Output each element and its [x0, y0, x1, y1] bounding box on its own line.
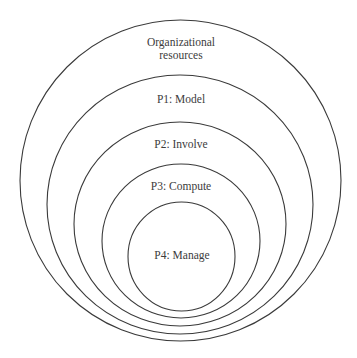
ring-p1-model: P1: Model: [47, 75, 313, 334]
nested-circles-diagram: Organizational resources P1: Model P2: I…: [0, 0, 357, 358]
ring-p1: [47, 75, 313, 334]
ring-p2-involve: P2: Involve: [74, 122, 286, 326]
ring-p2: [74, 122, 286, 326]
label-organizational: Organizational: [147, 36, 215, 49]
label-resources: resources: [159, 49, 203, 61]
label-p1-model: P1: Model: [157, 93, 205, 105]
label-p2-involve: P2: Involve: [154, 138, 207, 150]
label-p3-compute: P3: Compute: [151, 180, 211, 193]
label-p4-manage: P4: Manage: [154, 249, 209, 262]
ring-p3-compute: P3: Compute: [102, 164, 260, 318]
ring-p4-manage: P4: Manage: [128, 202, 235, 311]
